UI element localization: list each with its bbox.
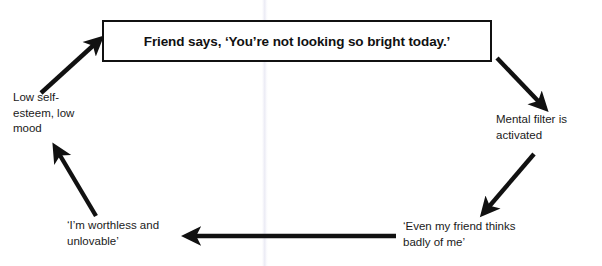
cognitive-cycle-diagram: Friend says, ‘You’re not looking so brig…: [0, 0, 602, 266]
trigger-statement-box: Friend says, ‘You’re not looking so brig…: [102, 20, 492, 62]
trigger-statement-text: Friend says, ‘You’re not looking so brig…: [144, 34, 451, 49]
arrow-mood-to-trigger: [41, 43, 96, 93]
node-even-my-friend-thinks-badly: ‘Even my friend thinks badly of me’: [403, 219, 533, 250]
arrow-filter-to-thought: [487, 154, 534, 209]
arrow-trigger-to-filter: [497, 58, 541, 104]
node-mental-filter: Mental filter is activated: [496, 112, 596, 143]
node-low-self-esteem: Low self- esteem, low mood: [13, 90, 93, 137]
arrow-belief-to-mood: [58, 152, 96, 216]
node-im-worthless-unlovable: ‘I’m worthless and unlovable’: [67, 218, 197, 249]
